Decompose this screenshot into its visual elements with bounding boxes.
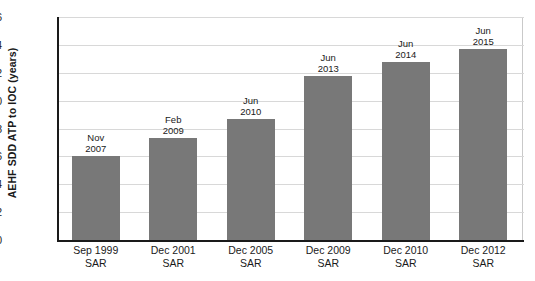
bar-label-line1: Feb	[163, 114, 184, 125]
bar-label-line2: 2013	[318, 63, 339, 74]
bar-value-label: Feb2009	[163, 114, 184, 136]
x-axis-labels: Sep 1999SARDec 2001SARDec 2005SARDec 200…	[57, 244, 522, 274]
bar-slot: Jun2013	[290, 17, 368, 240]
bar[interactable]	[382, 62, 430, 240]
bar-chart: AEHF SDD ATP to IOC (years) 161412108642…	[0, 0, 535, 281]
x-axis-label: Sep 1999SAR	[57, 244, 135, 269]
x-axis-label: Dec 2009SAR	[290, 244, 368, 269]
x-axis-label-line2: SAR	[367, 257, 445, 270]
bar-value-label: Jun2014	[395, 38, 416, 60]
bar-label-line2: 2014	[395, 49, 416, 60]
x-axis-label-line1: Dec 2009	[290, 244, 368, 257]
bar-label-line1: Jun	[240, 95, 261, 106]
bar[interactable]	[304, 76, 352, 240]
bar-slot: Jun2010	[212, 17, 290, 240]
x-axis-label-line1: Sep 1999	[57, 244, 135, 257]
x-axis-label: Dec 2010SAR	[367, 244, 445, 269]
bar-slot: Jun2014	[367, 17, 445, 240]
bar-label-line2: 2010	[240, 106, 261, 117]
bar-label-line2: 2007	[85, 143, 106, 154]
bar-value-label: Nov2007	[85, 132, 106, 154]
y-tick-label-16: 16	[0, 11, 2, 23]
y-tick-label-12: 12	[0, 67, 2, 79]
y-tick-label-14: 14	[0, 39, 2, 51]
y-tick-label-8: 8	[0, 123, 2, 135]
bar-label-line1: Jun	[395, 38, 416, 49]
y-tick-label-4: 4	[0, 178, 2, 190]
bar-label-line2: 2015	[473, 36, 494, 47]
x-axis-label-line2: SAR	[445, 257, 523, 270]
y-tick-label-0: 0	[0, 234, 2, 246]
bar[interactable]	[72, 156, 120, 240]
y-axis-title-text: AEHF SDD ATP to IOC (years)	[6, 47, 18, 198]
x-axis-label: Dec 2005SAR	[212, 244, 290, 269]
x-axis-label-line1: Dec 2001	[135, 244, 213, 257]
bar[interactable]	[149, 138, 197, 240]
x-axis-label-line2: SAR	[290, 257, 368, 270]
x-axis-label-line2: SAR	[135, 257, 213, 270]
bar-slot: Nov2007	[57, 17, 135, 240]
bar-value-label: Jun2013	[318, 52, 339, 74]
bar-label-line1: Nov	[85, 132, 106, 143]
bar[interactable]	[459, 49, 507, 240]
bar[interactable]	[227, 119, 275, 240]
gridline-0	[59, 240, 524, 241]
x-axis-label-line1: Dec 2012	[445, 244, 523, 257]
x-axis-label-line1: Dec 2010	[367, 244, 445, 257]
x-axis-label: Dec 2001SAR	[135, 244, 213, 269]
x-axis-label-line2: SAR	[57, 257, 135, 270]
y-tick-label-10: 10	[0, 95, 2, 107]
bar-slot: Feb2009	[135, 17, 213, 240]
bar-label-line1: Jun	[473, 25, 494, 36]
x-axis-label-line2: SAR	[212, 257, 290, 270]
bar-slot: Jun2015	[445, 17, 523, 240]
bar-label-line1: Jun	[318, 52, 339, 63]
x-axis-label: Dec 2012SAR	[445, 244, 523, 269]
bar-value-label: Jun2010	[240, 95, 261, 117]
y-axis-title: AEHF SDD ATP to IOC (years)	[0, 0, 24, 245]
x-axis-label-line1: Dec 2005	[212, 244, 290, 257]
bar-label-line2: 2009	[163, 125, 184, 136]
y-tick-label-6: 6	[0, 150, 2, 162]
bars-layer: Nov2007Feb2009Jun2010Jun2013Jun2014Jun20…	[57, 17, 522, 240]
y-tick-label-2: 2	[0, 206, 2, 218]
bar-value-label: Jun2015	[473, 25, 494, 47]
